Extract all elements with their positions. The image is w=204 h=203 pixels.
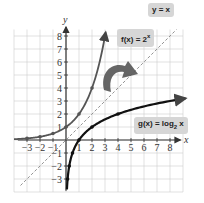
x-axis-label: x	[183, 134, 189, 145]
grid-lines	[14, 30, 183, 193]
y-axis-label: y	[62, 14, 68, 25]
svg-text:7: 7	[57, 44, 62, 55]
reflection-arrow-icon	[103, 61, 138, 92]
identity-label: y = x	[148, 3, 174, 17]
svg-text:5: 5	[129, 142, 134, 153]
log-label-suffix: x	[177, 119, 184, 128]
svg-text:−2: −2	[35, 142, 46, 153]
svg-text:6: 6	[57, 57, 62, 68]
svg-text:−2: −2	[51, 161, 62, 172]
svg-text:2: 2	[90, 142, 95, 153]
svg-text:6: 6	[142, 142, 147, 153]
exponential-label: f(x) = 2x	[117, 29, 154, 47]
svg-text:4: 4	[116, 142, 121, 153]
svg-text:3: 3	[57, 96, 62, 107]
exponential-label-exponent: x	[147, 33, 150, 39]
svg-text:−3: −3	[51, 174, 62, 185]
identity-line-dashed	[21, 30, 177, 186]
svg-text:8: 8	[57, 31, 62, 42]
exponential-label-text: f(x) = 2	[121, 35, 147, 44]
identity-label-text: y = x	[152, 5, 170, 14]
svg-text:−3: −3	[22, 142, 33, 153]
svg-text:7: 7	[155, 142, 160, 153]
svg-text:8: 8	[168, 142, 173, 153]
tick-labels: −3−2−112345678−3−2−112345678	[22, 31, 173, 185]
graph-canvas: −3−2−112345678−3−2−112345678 x y	[0, 0, 204, 203]
log-label-text: g(x) = log	[138, 119, 174, 128]
svg-text:4: 4	[57, 83, 62, 94]
svg-text:5: 5	[57, 70, 62, 81]
svg-text:3: 3	[103, 142, 108, 153]
log-label: g(x) = log2 x	[134, 117, 188, 134]
svg-text:2: 2	[57, 109, 62, 120]
